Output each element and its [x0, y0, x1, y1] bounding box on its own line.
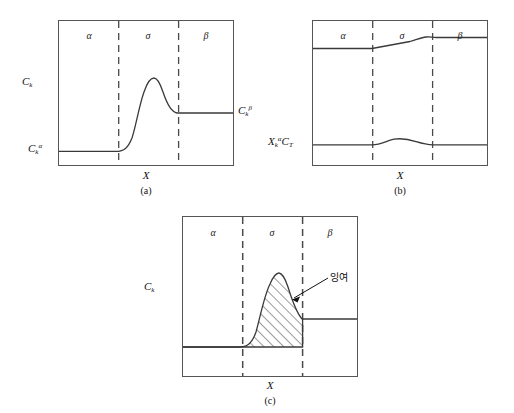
panel-c-y-axis-label: Ck	[144, 280, 154, 294]
panel-b-phase-beta: β	[450, 30, 470, 41]
panel-b-x-axis-label: X	[385, 169, 415, 181]
panel-a-phase-sigma: σ	[138, 30, 158, 41]
panel-a-plot	[58, 20, 234, 166]
annotation-leader-line	[294, 278, 328, 298]
panel-c-caption: (c)	[250, 395, 290, 406]
panel-a-caption: (a)	[126, 185, 166, 196]
panel-b: α σ β XkαCT X (b)	[312, 20, 488, 166]
panel-b-y-axis-sub2: T	[289, 141, 293, 149]
panel-a-beta-plateau-sup: β	[248, 104, 252, 112]
hatched-excess-area	[240, 273, 302, 347]
excess-annotation-label: 잉여	[330, 269, 348, 284]
panel-c-x-axis-label: X	[255, 379, 285, 391]
concentration-curve-a	[59, 78, 233, 151]
panel-c-y-axis-sub: k	[151, 286, 154, 294]
panel-c-phase-beta: β	[320, 227, 340, 238]
panel-a-phase-alpha: α	[79, 30, 99, 41]
panel-a-y-axis-sub: k	[29, 81, 32, 89]
panel-a-x-axis-label: X	[131, 169, 161, 181]
panel-c-phase-sigma: σ	[262, 227, 282, 238]
panel-a-y-axis-label: Ck	[22, 75, 32, 89]
panel-b-caption: (b)	[380, 185, 420, 196]
panel-c: α σ β Ck 잉여 X (c)	[182, 216, 358, 377]
panel-a-alpha-plateau-sup: α	[38, 142, 42, 150]
panel-b-y-axis-label: XkαCT	[268, 135, 293, 149]
panel-b-phase-alpha: α	[333, 30, 353, 41]
panel-a-beta-plateau-label: Ckβ	[238, 104, 252, 118]
panel-c-phase-alpha: α	[203, 227, 223, 238]
panel-b-plot	[312, 20, 488, 166]
panel-b-y-axis-base: X	[268, 135, 275, 147]
panel-a-alpha-plateau-label: Ckα	[28, 142, 42, 156]
figure-container: α σ β Ck Ckα Ckβ X (a) α σ β XkαCT	[0, 0, 514, 413]
panel-a-phase-beta: β	[196, 30, 216, 41]
panel-a: α σ β Ck Ckα Ckβ X (a)	[58, 20, 234, 166]
panel-c-plot	[182, 216, 358, 377]
lower-profile-curve-b	[313, 139, 487, 145]
panel-b-y-axis-base2: C	[282, 135, 289, 147]
panel-b-phase-sigma: σ	[392, 30, 412, 41]
